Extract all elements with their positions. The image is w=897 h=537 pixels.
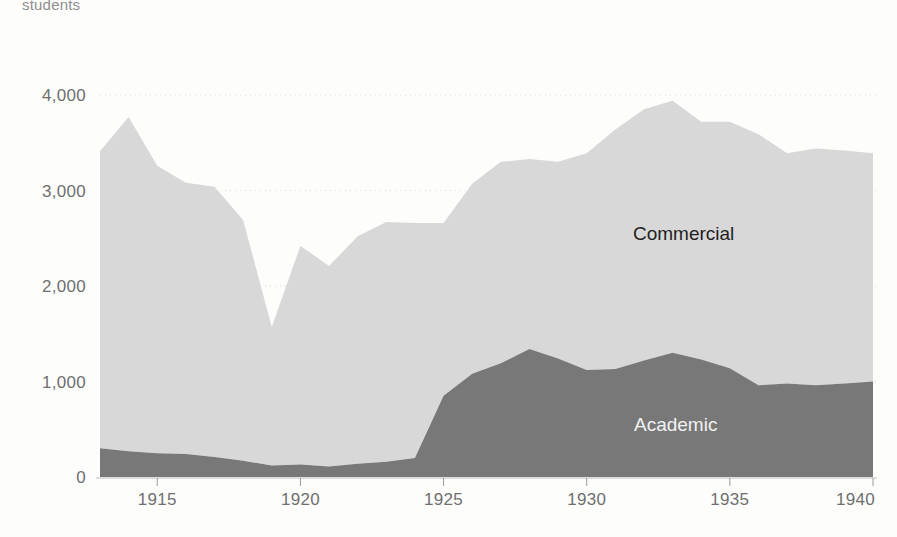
x-tick-label-1930: 1930 <box>567 490 606 509</box>
x-axis-tick-labels: 191519201925193019351940 <box>138 490 875 509</box>
chart-canvas: 01,0002,0003,0004,000 191519201925193019… <box>0 0 897 537</box>
y-tick-label-2000: 2,000 <box>42 277 86 296</box>
stacked-areas <box>100 101 873 477</box>
y-tick-label-1000: 1,000 <box>42 373 86 392</box>
series-label-academic: Academic <box>634 414 717 435</box>
area-chart: students 01,0002,0003,0004,000 191519201… <box>0 0 897 537</box>
x-tick-label-1925: 1925 <box>424 490 463 509</box>
y-tick-label-0: 0 <box>76 468 86 487</box>
y-axis-tick-labels: 01,0002,0003,0004,000 <box>42 86 86 487</box>
y-tick-label-4000: 4,000 <box>42 86 86 105</box>
x-tick-label-1935: 1935 <box>710 490 749 509</box>
axes <box>96 478 877 486</box>
x-tick-label-1920: 1920 <box>281 490 320 509</box>
series-label-commercial: Commercial <box>633 223 734 244</box>
x-tick-label-1915: 1915 <box>138 490 177 509</box>
y-axis-unit-label: students <box>22 0 80 13</box>
y-tick-label-3000: 3,000 <box>42 182 86 201</box>
x-tick-label-1940: 1940 <box>836 490 875 509</box>
